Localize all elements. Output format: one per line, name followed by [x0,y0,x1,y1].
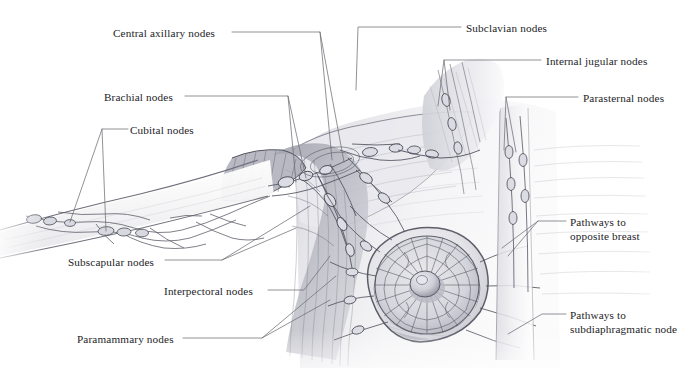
leader-interpectoral-nodes [268,256,330,290]
label-paramammary-nodes: Paramammary nodes [77,333,174,347]
leader-internal-jugular-nodes-2 [444,60,450,110]
label-pathways-to-subdiaphragmatic-node: Pathways to subdiaphragmatic node [570,309,677,336]
leader-brachial-nodes-2 [288,96,296,182]
leader-central-axillary-nodes-2 [320,32,332,160]
leader-subscapular-nodes-2 [222,206,310,260]
leader-paramammary-nodes-2 [262,276,336,338]
leader-pathways-subdiaphragmatic [508,314,566,334]
anatomical-figure: Central axillary nodes Brachial nodes Cu… [0,0,683,368]
label-interpectoral-nodes: Interpectoral nodes [164,285,253,299]
leader-cubital-nodes [70,129,128,222]
leader-pathways-opposite-breast-2 [508,221,538,256]
leader-pathways-opposite-breast [502,221,566,248]
label-central-axillary-nodes: Central axillary nodes [113,27,215,41]
label-subscapular-nodes: Subscapular nodes [68,256,154,270]
leader-paramammary-nodes [183,300,330,338]
label-subclavian-nodes: Subclavian nodes [466,22,547,36]
leader-subclavian-nodes [356,27,461,90]
leader-internal-jugular-nodes [438,60,541,106]
label-internal-jugular-nodes: Internal jugular nodes [546,55,647,69]
leader-brachial-nodes [185,96,306,178]
leader-parasternal-nodes-2 [506,97,516,152]
leader-cubital-nodes-2 [102,129,106,231]
leader-parasternal-nodes [504,97,578,150]
label-parasternal-nodes: Parasternal nodes [583,92,664,106]
label-cubital-nodes: Cubital nodes [130,124,194,138]
label-pathways-to-opposite-breast: Pathways to opposite breast [570,216,640,243]
label-brachial-nodes: Brachial nodes [104,91,173,105]
